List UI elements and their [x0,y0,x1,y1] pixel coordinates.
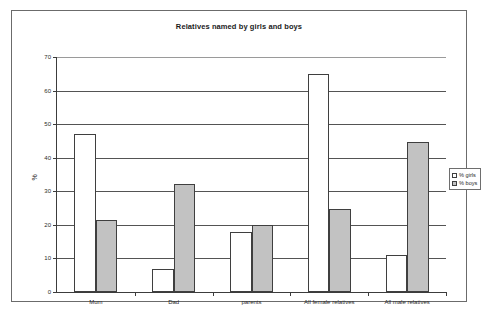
gridline [57,158,446,159]
y-axis-tick-label: 0 [48,289,51,295]
x-axis-tick [213,292,214,296]
bar-boys [252,225,274,292]
y-axis-tick-label: 30 [44,188,51,194]
gridline [57,91,446,92]
bar-girls [230,232,252,292]
legend-label: % girls [459,171,476,179]
bar-boys [96,220,118,292]
bar-boys [174,184,196,292]
y-axis-tick [53,158,57,159]
y-axis-tick-label: 20 [44,222,51,228]
y-axis-tick [53,258,57,259]
legend-swatch-boys [452,181,457,186]
chart-frame: Relatives named by girls and boys % 0102… [11,10,467,302]
bar-girls [74,134,96,292]
y-axis-tick-label: 40 [44,155,51,161]
gridline [57,124,446,125]
y-axis-tick-label: 50 [44,121,51,127]
x-axis-tick [135,292,136,296]
y-axis-tick [53,91,57,92]
y-axis-tick [53,225,57,226]
gridline [57,191,446,192]
y-axis-tick-label: 70 [44,54,51,60]
bar-boys [407,142,429,292]
chart-title: Relatives named by girls and boys [12,22,466,31]
x-axis-category-label: Mum [89,299,102,305]
chart-legend: % girls% boys [449,168,481,190]
legend-label: % boys [459,179,477,187]
x-axis-category-label: parents [241,299,261,305]
x-axis-category-label: All male relatives [384,299,429,305]
x-axis-category-label: Dad [168,299,179,305]
legend-item: % boys [452,179,477,187]
y-axis-tick-label: 60 [44,88,51,94]
bar-boys [329,209,351,292]
bar-girls [386,255,408,292]
bar-girls [308,74,330,292]
y-axis-tick-label: 10 [44,255,51,261]
y-axis-tick [53,292,57,293]
bar-girls [152,269,174,293]
legend-item: % girls [452,171,477,179]
y-axis-tick [53,57,57,58]
y-axis-tick [53,191,57,192]
x-axis-tick [290,292,291,296]
gridline [57,57,446,58]
x-axis-tick [368,292,369,296]
plot-area: 010203040506070 MumDadparentsAll female … [56,57,446,293]
legend-swatch-girls [452,173,457,178]
y-axis-tick [53,124,57,125]
y-axis-title: % [31,174,38,180]
x-axis-tick [446,292,447,296]
x-axis-category-label: All female relatives [304,299,354,305]
